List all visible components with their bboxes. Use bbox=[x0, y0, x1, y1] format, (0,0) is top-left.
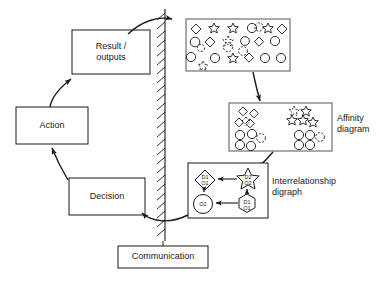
arrow-action-to-result bbox=[50, 79, 71, 107]
arrow-scatter-to-affinity bbox=[253, 72, 260, 101]
diagram-svg bbox=[0, 0, 379, 285]
affinity-diagram-label: Affinity diagram bbox=[337, 113, 379, 135]
action-label: Action bbox=[16, 120, 88, 131]
scattered-shapes-box bbox=[186, 19, 290, 71]
hatched-wall-divider bbox=[157, 9, 165, 241]
communication-label: Communication bbox=[118, 251, 208, 262]
interrelationship-digraph-label: Interrelationship digraph bbox=[272, 176, 378, 198]
decision-label: Decision bbox=[69, 191, 145, 202]
arrow-decision-to-action bbox=[52, 148, 68, 180]
digraph-node-circle-label: O2 bbox=[191, 201, 215, 207]
digraph-node-diamond-label: D1 O1 bbox=[193, 174, 217, 186]
digraph-node-hexagon-label: D1 O1 bbox=[235, 199, 259, 211]
result-outputs-label: Result / outputs bbox=[72, 41, 150, 63]
affinity-diagram-box bbox=[229, 103, 332, 151]
diagram-canvas: Result / outputs Action Decision Communi… bbox=[0, 0, 379, 285]
digraph-node-star-label: D2 O2 bbox=[236, 174, 260, 186]
